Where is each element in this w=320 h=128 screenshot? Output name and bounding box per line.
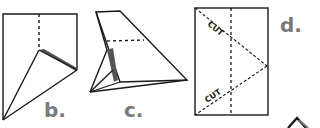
step-c-edge-5	[96, 12, 107, 50]
cut-label-top: CUT	[206, 20, 226, 39]
cut-label-bottom: CUT	[203, 87, 223, 105]
step-b-figure: b.	[3, 14, 77, 122]
step-d-cut-line-bottom	[195, 66, 267, 115]
step-b-fold-edge	[39, 50, 77, 70]
step-c-fold-line	[107, 40, 144, 41]
step-c-label: c.	[124, 98, 143, 122]
step-d-label: d.	[280, 13, 302, 37]
step-c-wing-outline	[96, 11, 187, 82]
step-c-edge-1	[90, 50, 107, 92]
folding-instructions-diagram: b. c. CUT CUT d.	[0, 0, 320, 128]
step-b-diagonal-1	[3, 50, 39, 120]
step-b-label: b.	[44, 98, 66, 122]
step-d-figure: CUT CUT d.	[195, 8, 302, 115]
partial-next-figure	[288, 118, 308, 128]
step-c-shade	[107, 48, 118, 82]
step-c-figure: c.	[90, 11, 187, 122]
